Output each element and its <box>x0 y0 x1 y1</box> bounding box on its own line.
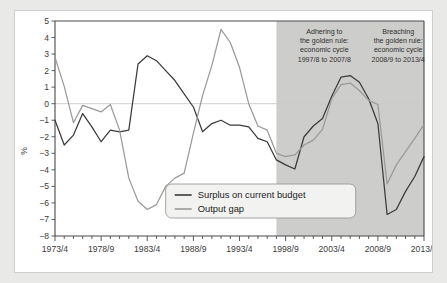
y-tick-label: −6 <box>39 198 49 208</box>
x-tick-label: 1988/9 <box>180 244 207 254</box>
annotation-line: Adhering to <box>306 28 342 36</box>
y-tick-label: 2 <box>44 66 49 76</box>
y-tick-label: −8 <box>39 231 49 241</box>
y-axis-title: % <box>19 147 29 155</box>
y-tick-label-layer: 543210−1−2−3−4−5−6−7−8 <box>39 16 55 241</box>
annotation-line: economic cycle <box>374 46 423 54</box>
annotation-line: 2008/9 to 2013/4 <box>372 56 425 64</box>
line-chart: 543210−1−2−3−4−5−6−7−8 1973/41978/91983/… <box>15 11 432 272</box>
x-tick-label: 1978/9 <box>88 244 115 254</box>
x-tick-label: 1998/9 <box>272 244 299 254</box>
x-tick-label: 2013/4 <box>411 244 432 254</box>
annotation-line: the golden rule: <box>374 37 423 45</box>
y-tick-label: −1 <box>39 115 49 125</box>
x-tick-label: 2008/9 <box>365 244 392 254</box>
x-tick-label: 1993/4 <box>226 244 253 254</box>
y-tick-label: 4 <box>44 33 49 43</box>
y-tick-label: 0 <box>44 99 49 109</box>
y-tick-label: 3 <box>44 49 49 59</box>
y-tick-label: −5 <box>39 181 49 191</box>
chart-card: 543210−1−2−3−4−5−6−7−8 1973/41978/91983/… <box>14 10 433 273</box>
y-tick-label: 5 <box>44 16 49 26</box>
y-tick-label: −4 <box>39 165 49 175</box>
y-tick-label: −3 <box>39 148 49 158</box>
chart-legend[interactable]: Surplus on current budgetOutput gap <box>166 184 356 218</box>
legend-label-output-gap[interactable]: Output gap <box>198 203 244 214</box>
annotation-line: economic cycle <box>300 46 349 54</box>
y-tick-label: −2 <box>39 132 49 142</box>
y-tick-label: −7 <box>39 214 49 224</box>
x-tick-label: 1983/4 <box>134 244 161 254</box>
chart-screenshot: 543210−1−2−3−4−5−6−7−8 1973/41978/91983/… <box>0 0 447 283</box>
x-tick-label: 2003/4 <box>319 244 346 254</box>
x-tick-label-layer: 1973/41978/91983/41988/91993/41998/92003… <box>42 236 432 254</box>
annotation-line: 1997/8 to 2007/8 <box>298 56 351 64</box>
annotation-line: the golden rule: <box>300 37 349 45</box>
legend-label-surplus[interactable]: Surplus on current budget <box>198 189 306 200</box>
y-tick-label: 1 <box>44 82 49 92</box>
x-tick-label: 1973/4 <box>42 244 69 254</box>
annotation-line: Breaching <box>382 28 414 36</box>
